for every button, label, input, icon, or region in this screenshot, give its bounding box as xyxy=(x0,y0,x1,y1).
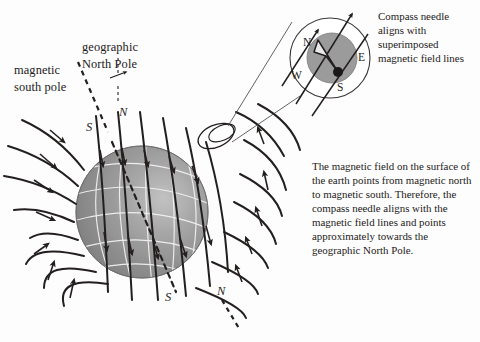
compass-caption-line-3: superimposed xyxy=(378,38,439,51)
pole-bottom-n-label: N xyxy=(217,284,225,299)
magnetic-south-pole-label-line-1: magnetic xyxy=(14,63,60,78)
compass-caption-line-1: Compass needle xyxy=(378,10,449,23)
geographic-north-pole-label-line-1: geographic xyxy=(82,40,138,55)
body-text-line-4: compass needle aligns with the xyxy=(312,202,448,215)
field-lines-right xyxy=(196,104,300,318)
body-text-line-5: magnetic field lines and points xyxy=(312,216,446,229)
compass-inset xyxy=(282,14,370,116)
compass-north-label: N xyxy=(303,35,311,49)
magnetic-south-pole-label-line-2: south pole xyxy=(14,80,66,95)
magnetic-axis-extension-top xyxy=(78,62,108,132)
body-text-line-1: The magnetic field on the surface of xyxy=(312,160,470,173)
compass-west-label: W xyxy=(291,68,302,82)
pole-top-n-label: N xyxy=(119,105,127,120)
body-text-line-7: geographic North Pole. xyxy=(312,244,413,257)
geographic-north-pole-label-line-2: North Pole xyxy=(82,57,137,72)
compass-south-label: S xyxy=(337,80,343,94)
callout-leader-lines xyxy=(228,22,300,142)
pole-bottom-s-label: S xyxy=(165,290,171,305)
body-text-line-6: approximately towards the xyxy=(312,230,428,243)
compass-east-label: E xyxy=(358,50,365,64)
callout-magnifier-ellipse xyxy=(194,118,238,154)
pole-top-s-label: S xyxy=(86,120,92,135)
compass-caption-line-2: aligns with xyxy=(378,24,426,37)
compass-caption-line-4: magnetic field lines xyxy=(378,52,464,65)
body-text-line-3: to magnetic south. Therefore, the xyxy=(312,188,456,201)
figure-canvas: N E W S Compass needle aligns with super… xyxy=(0,0,480,342)
body-text-line-2: the earth points from magnetic north xyxy=(312,174,471,187)
